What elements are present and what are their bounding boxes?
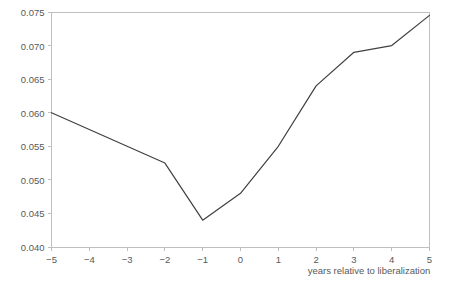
chart-plot-area [0,0,455,290]
data-series-line [52,15,430,220]
y-axis-tick-label: 0.050 [0,174,45,185]
x-axis-tick-label: 3 [351,254,356,265]
y-axis-tick-label: 0.060 [0,107,45,118]
y-axis-tick-label: 0.055 [0,141,45,152]
y-axis-tick-label: 0.075 [0,7,45,18]
plot-frame [52,12,430,247]
x-axis-tick-label: 1 [276,254,281,265]
x-axis-tick-label: 4 [389,254,394,265]
x-axis-tick-label: 0 [238,254,243,265]
y-axis-tick-label: 0.040 [0,242,45,253]
x-axis-tick-label: −2 [159,254,170,265]
x-axis-tick-label: −3 [122,254,133,265]
y-axis-tick-label: 0.045 [0,208,45,219]
x-axis-tick-label: 5 [427,254,432,265]
y-axis-tick-label: 0.070 [0,40,45,51]
y-axis-tick-label: 0.065 [0,74,45,85]
x-axis-tick-label: 2 [313,254,318,265]
x-axis-tick-label: −4 [84,254,95,265]
x-axis-title: years relative to liberalization [308,265,431,276]
data-line-1 [52,15,430,220]
x-axis-tick-label: −5 [46,254,57,265]
x-axis-tick-label: −1 [197,254,208,265]
axis-tick-marks [48,12,430,251]
line-chart: 0.0400.0450.0500.0550.0600.0650.0700.075… [0,0,455,290]
